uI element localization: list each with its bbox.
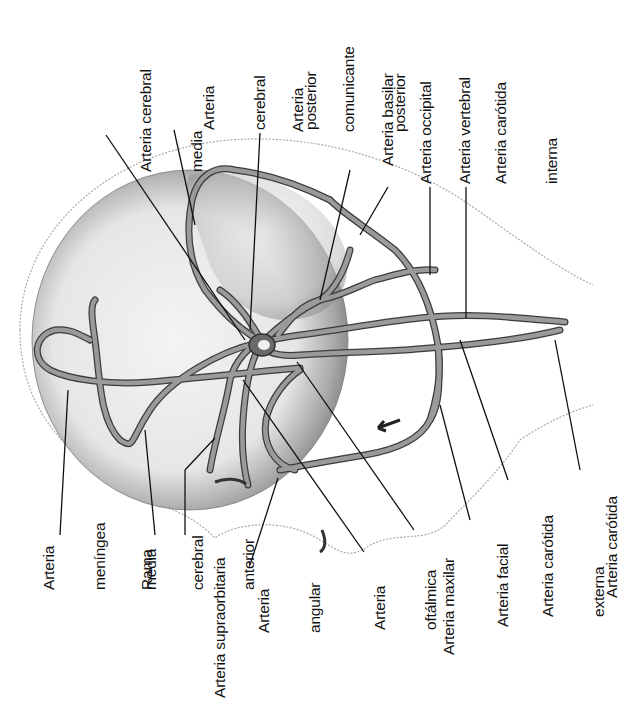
label-arteria-carotida-interna: Arteria carótida interna: [458, 82, 577, 184]
flow-arrow-icon: [378, 420, 400, 431]
label-arteria-carotida: Arteria carótida: [569, 496, 622, 598]
label-arteria-angular: Arteria angular: [221, 583, 340, 633]
